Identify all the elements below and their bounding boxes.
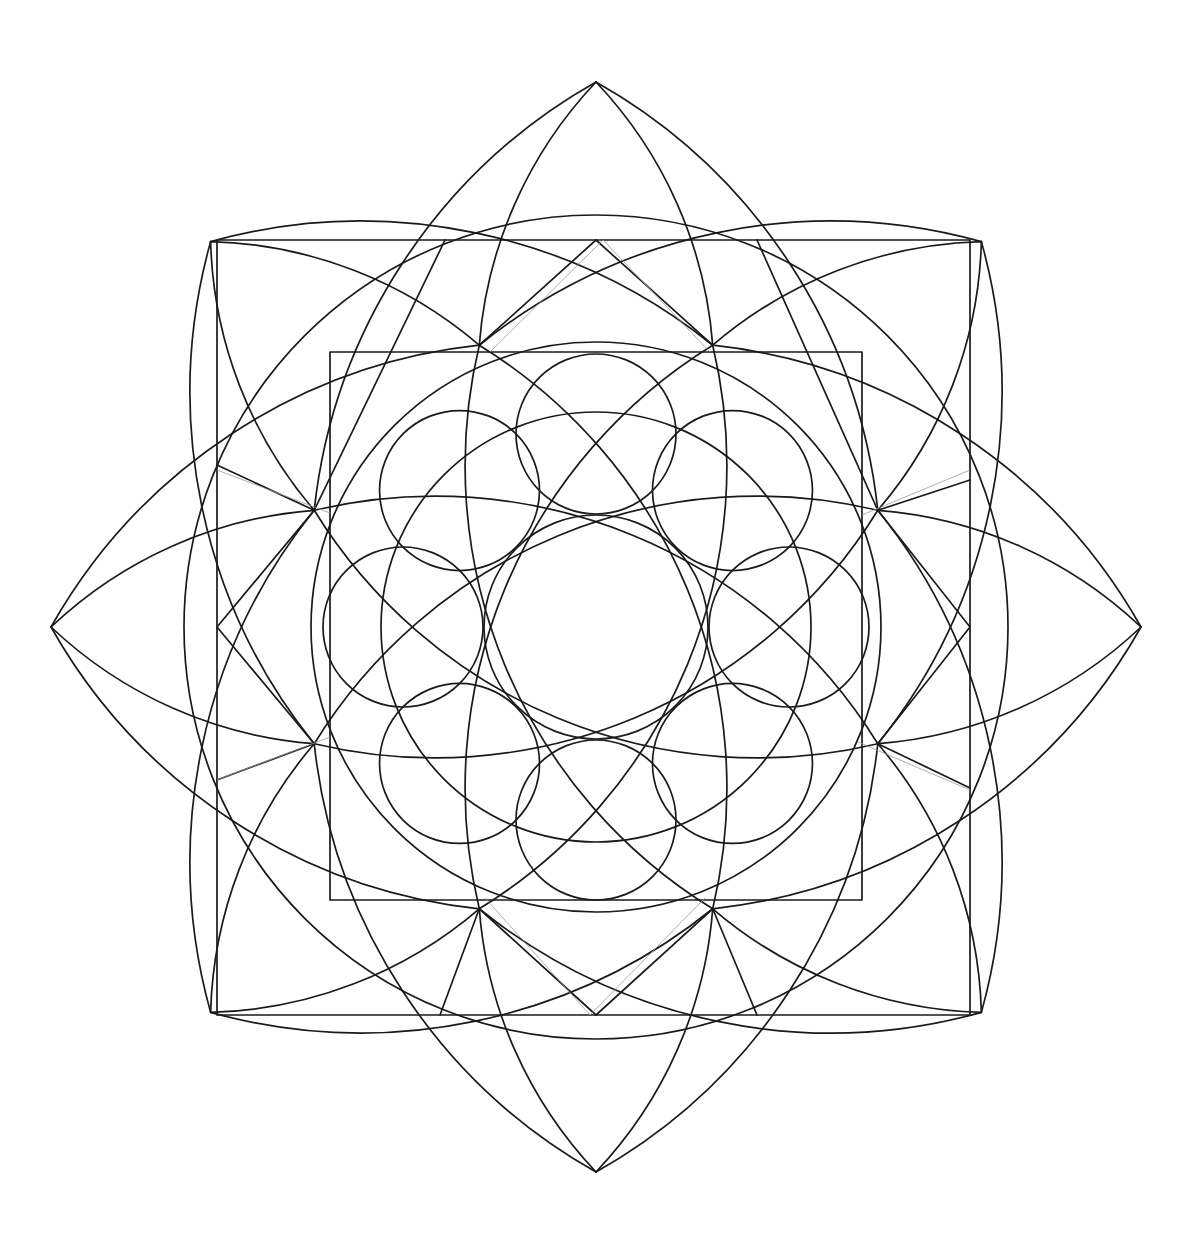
construction-line: [862, 470, 970, 515]
diamond-edge: [479, 909, 712, 1015]
mid-circle: [311, 342, 881, 912]
corner-diagonal: [878, 480, 970, 510]
petal-sweep: [596, 744, 878, 1172]
construction-line: [603, 240, 710, 352]
petal-sweep: [713, 345, 1141, 627]
star-petal: [479, 909, 712, 1172]
petal-sweep: [878, 242, 1002, 744]
construction-line: [590, 898, 705, 1015]
corner-diagonal: [217, 465, 314, 510]
diamond-edge: [217, 510, 314, 743]
petal-sweep: [51, 627, 479, 909]
diamond-edge: [479, 240, 712, 345]
construction-line: [490, 240, 603, 352]
corner-diagonal: [878, 744, 970, 788]
second-circle: [381, 412, 811, 842]
inner-circle: [484, 515, 708, 739]
star-petal: [878, 510, 1141, 743]
petal-sweep: [314, 744, 596, 1172]
corner-diagonal: [713, 909, 757, 1015]
inner-square: [330, 352, 862, 900]
construction-line: [217, 470, 330, 513]
petal-sweep: [51, 345, 479, 627]
small-circle: [380, 411, 540, 571]
petal-sweep: [596, 82, 878, 510]
ring-circles: [323, 354, 869, 900]
star-petal: [479, 82, 712, 345]
diamond-edge: [878, 510, 970, 743]
outer-circle: [184, 215, 1008, 1039]
petal-sweep: [314, 82, 596, 510]
petal-sweep: [878, 510, 1002, 1012]
construction-line: [217, 737, 330, 780]
outer-circle: [184, 215, 1008, 1039]
center-lenses: [314, 345, 878, 909]
squares: [217, 240, 970, 1015]
construction-line: [485, 898, 590, 1015]
star-petal: [51, 510, 314, 743]
mandala-drawing: [0, 0, 1191, 1255]
